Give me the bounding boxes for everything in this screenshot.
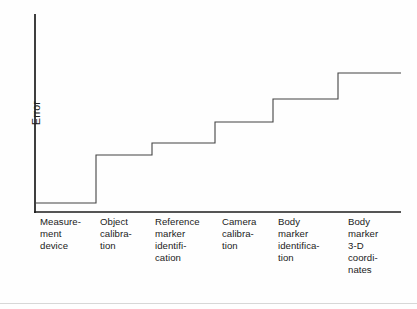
category-label-object-calibration: Objectcalibra-tion (100, 216, 132, 252)
category-label-line: tion (222, 240, 256, 252)
step-chart-figure: Error Measure-mentdeviceObjectcalibra-ti… (0, 0, 417, 309)
category-label-line: device (40, 240, 81, 252)
category-label-line: marker (278, 228, 320, 240)
category-label-row: Measure-mentdeviceObjectcalibra-tionRefe… (0, 216, 417, 306)
category-label-line: Camera (222, 216, 256, 228)
category-label-line: Object (100, 216, 132, 228)
category-label-line: coordi- (348, 252, 378, 264)
category-label-line: cation (155, 252, 200, 264)
category-label-line: calibra- (100, 228, 132, 240)
category-label-reference-marker-identification: Referencemarkeridentifi-cation (155, 216, 200, 264)
category-label-line: Measure- (40, 216, 81, 228)
y-axis-label: Error (30, 83, 48, 143)
category-label-line: tion (100, 240, 132, 252)
category-label-line: identifi- (155, 240, 200, 252)
category-label-measurement-device: Measure-mentdevice (40, 216, 81, 252)
category-label-body-marker-3d-coordinates: Bodymarker3-Dcoordi-nates (348, 216, 378, 276)
category-label-line: 3-D (348, 240, 378, 252)
category-label-line: tion (278, 252, 320, 264)
category-label-body-marker-identification: Bodymarkeridentifica-tion (278, 216, 320, 264)
category-label-line: Reference (155, 216, 200, 228)
category-label-line: ment (40, 228, 81, 240)
category-label-line: Body (278, 216, 320, 228)
category-label-line: marker (348, 228, 378, 240)
category-label-line: calibra- (222, 228, 256, 240)
category-label-line: Body (348, 216, 378, 228)
bottom-divider-rule (0, 303, 417, 304)
category-label-line: identifica- (278, 240, 320, 252)
category-label-camera-calibration: Cameracalibra-tion (222, 216, 256, 252)
category-label-line: nates (348, 264, 378, 276)
category-label-line: marker (155, 228, 200, 240)
step-series-line (35, 73, 401, 203)
